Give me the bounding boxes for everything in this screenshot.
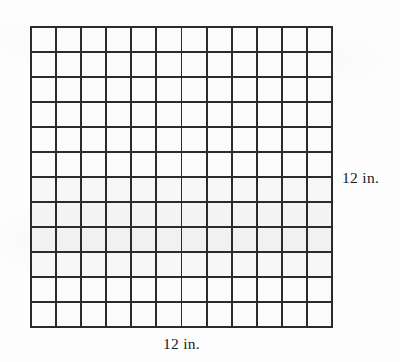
grid-cell bbox=[157, 178, 180, 201]
grid-cell bbox=[132, 303, 155, 326]
grid-cell bbox=[107, 128, 130, 151]
grid-cell bbox=[208, 128, 231, 151]
grid-cell bbox=[82, 228, 105, 251]
grid-cell bbox=[132, 178, 155, 201]
grid-cell bbox=[157, 78, 180, 101]
grid-cell bbox=[283, 228, 306, 251]
grid-cell bbox=[208, 28, 231, 51]
grid-cell bbox=[57, 228, 80, 251]
grid-cell bbox=[283, 128, 306, 151]
grid-cell bbox=[132, 228, 155, 251]
grid-cell bbox=[82, 28, 105, 51]
grid-cell bbox=[32, 128, 55, 151]
grid-cell bbox=[32, 78, 55, 101]
grid-cell bbox=[233, 278, 256, 301]
grid-cell bbox=[208, 228, 231, 251]
grid-cell bbox=[157, 128, 180, 151]
grid-cell bbox=[107, 203, 130, 226]
grid-cell bbox=[233, 153, 256, 176]
grid-cell bbox=[57, 53, 80, 76]
grid-cell bbox=[258, 28, 281, 51]
grid-cell bbox=[157, 303, 180, 326]
grid-cell bbox=[283, 203, 306, 226]
grid-cell bbox=[157, 28, 180, 51]
grid-cell bbox=[258, 53, 281, 76]
grid-cell bbox=[308, 128, 331, 151]
grid-cell bbox=[107, 78, 130, 101]
grid-cell bbox=[157, 53, 180, 76]
grid-cell bbox=[157, 253, 180, 276]
grid-cell bbox=[157, 228, 180, 251]
grid-cell bbox=[157, 103, 180, 126]
grid-cell bbox=[32, 278, 55, 301]
grid-cell bbox=[208, 178, 231, 201]
grid-cell bbox=[233, 253, 256, 276]
grid-cell bbox=[208, 253, 231, 276]
grid-cell bbox=[107, 228, 130, 251]
grid-cell bbox=[32, 303, 55, 326]
grid-cell bbox=[32, 228, 55, 251]
grid-cell bbox=[57, 303, 80, 326]
grid-cell bbox=[57, 203, 80, 226]
grid-cell bbox=[182, 78, 205, 101]
grid-cell bbox=[32, 28, 55, 51]
grid-cell bbox=[57, 103, 80, 126]
grid-cell bbox=[82, 78, 105, 101]
grid-cell bbox=[82, 278, 105, 301]
grid-cell bbox=[283, 278, 306, 301]
grid-cell bbox=[258, 153, 281, 176]
grid-cell bbox=[283, 78, 306, 101]
grid-cell bbox=[208, 78, 231, 101]
grid-cell bbox=[157, 153, 180, 176]
grid-cell bbox=[283, 303, 306, 326]
grid-cell bbox=[107, 253, 130, 276]
grid-cell bbox=[157, 278, 180, 301]
grid-cell bbox=[132, 28, 155, 51]
grid-cell bbox=[233, 178, 256, 201]
grid-cell bbox=[107, 153, 130, 176]
grid-cell bbox=[82, 103, 105, 126]
grid-cell bbox=[182, 228, 205, 251]
grid-cell bbox=[258, 228, 281, 251]
grid-cell bbox=[308, 153, 331, 176]
grid-cell bbox=[283, 28, 306, 51]
grid-cell bbox=[208, 153, 231, 176]
grid-cell bbox=[57, 78, 80, 101]
grid-cell bbox=[132, 278, 155, 301]
grid-cell bbox=[308, 228, 331, 251]
grid-cell bbox=[132, 53, 155, 76]
grid-cell bbox=[32, 253, 55, 276]
grid-cell bbox=[233, 28, 256, 51]
grid-cell bbox=[182, 253, 205, 276]
grid-cell bbox=[182, 278, 205, 301]
grid-cell bbox=[182, 128, 205, 151]
grid-cell bbox=[283, 153, 306, 176]
grid-cell bbox=[308, 103, 331, 126]
grid-cell bbox=[132, 78, 155, 101]
grid-cell bbox=[132, 128, 155, 151]
grid-cell bbox=[82, 303, 105, 326]
grid-cell bbox=[258, 278, 281, 301]
grid-cell bbox=[283, 253, 306, 276]
grid-cell bbox=[82, 128, 105, 151]
grid-cell bbox=[57, 253, 80, 276]
grid-cell bbox=[308, 278, 331, 301]
grid-cell bbox=[132, 203, 155, 226]
grid-cell bbox=[208, 203, 231, 226]
grid-cell bbox=[233, 128, 256, 151]
grid-figure bbox=[30, 26, 333, 328]
grid-cell bbox=[107, 53, 130, 76]
grid-cell bbox=[32, 103, 55, 126]
grid-cell bbox=[283, 103, 306, 126]
grid-cell bbox=[233, 303, 256, 326]
grid-cell-container bbox=[30, 26, 333, 328]
grid-cell bbox=[82, 253, 105, 276]
grid-cell bbox=[208, 53, 231, 76]
grid-cell bbox=[258, 253, 281, 276]
grid-cell bbox=[308, 53, 331, 76]
grid-cell bbox=[132, 253, 155, 276]
grid-cell bbox=[233, 103, 256, 126]
grid-cell bbox=[283, 53, 306, 76]
grid-cell bbox=[258, 128, 281, 151]
grid-cell bbox=[258, 178, 281, 201]
